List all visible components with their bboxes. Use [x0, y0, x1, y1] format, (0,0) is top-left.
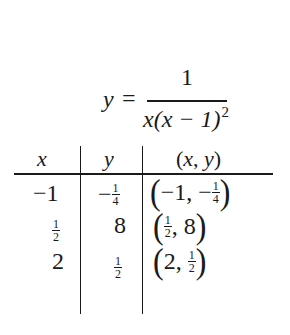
- column-divider-2: [142, 146, 143, 314]
- den: 2: [164, 227, 172, 239]
- header-point: (x, y): [176, 146, 221, 172]
- fraction-denominator: x(x − 1)2: [143, 104, 229, 133]
- sign: −: [98, 181, 112, 208]
- header-x: x: [37, 146, 47, 172]
- row3-x: 2: [52, 248, 64, 275]
- equals-sign: =: [122, 85, 136, 112]
- column-divider-1: [80, 146, 81, 314]
- row3-point: ( 2, 12 ): [153, 246, 206, 276]
- comma: ,: [172, 213, 178, 240]
- fraction-bar: [147, 100, 227, 102]
- row1-x: −1: [33, 180, 59, 207]
- point-x: −1: [161, 179, 187, 206]
- num: 1: [188, 249, 196, 262]
- num: 1: [212, 180, 220, 193]
- den: 2: [188, 262, 196, 274]
- header-divider: [14, 173, 273, 175]
- left-paren: (: [153, 210, 164, 243]
- denominator-x: x: [143, 106, 154, 132]
- right-paren: ): [196, 210, 207, 243]
- fraction: 12: [188, 249, 196, 274]
- den: 4: [212, 193, 220, 205]
- sign: −: [33, 180, 47, 206]
- fraction: 12: [114, 255, 122, 280]
- exponent: 2: [222, 104, 230, 120]
- sign: −: [198, 179, 212, 206]
- fraction: 12: [164, 214, 172, 239]
- row2-y: 8: [114, 212, 126, 239]
- den: 2: [52, 231, 60, 243]
- den: 4: [112, 195, 120, 207]
- value: 1: [47, 180, 59, 206]
- den: 2: [114, 268, 122, 280]
- point-x: 2: [164, 248, 176, 275]
- equation-lhs: y: [103, 86, 114, 113]
- row1-point: ( −1,− 14 ): [150, 177, 230, 207]
- fraction: 14: [112, 182, 120, 207]
- fraction-numerator: 1: [181, 64, 193, 91]
- fraction: 14: [212, 180, 220, 205]
- row1-y: − 14: [98, 181, 120, 208]
- header-y: y: [104, 146, 114, 172]
- row2-point: ( 12 ,8 ): [153, 211, 206, 241]
- comma: ,: [176, 248, 182, 275]
- right-paren: ): [220, 176, 231, 209]
- num: 1: [164, 214, 172, 227]
- right-paren: ): [196, 245, 207, 278]
- point-y: 8: [184, 213, 196, 240]
- denominator-rest: (x − 1): [154, 106, 221, 132]
- left-paren: (: [153, 245, 164, 278]
- comma: ,: [186, 179, 192, 206]
- row3-y: 12: [114, 252, 122, 280]
- fraction: 12: [52, 218, 60, 243]
- row2-x: 12: [52, 215, 60, 243]
- left-paren: (: [150, 176, 161, 209]
